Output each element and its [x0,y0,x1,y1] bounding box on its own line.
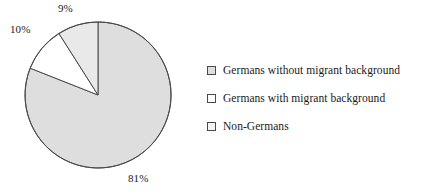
legend-swatch-icon [207,94,216,103]
legend-item-germans-with-migrant-background[interactable]: Germans with migrant background [207,84,423,112]
legend-item-label: Germans with migrant background [223,92,385,104]
pie-value-label-9-percent: 9% [58,2,73,14]
legend-item-non-germans[interactable]: Non-Germans [207,112,423,140]
legend-item-label: Germans without migrant background [223,64,400,76]
pie-value-label-81-percent: 81% [128,172,148,184]
legend-swatch-icon [207,66,216,75]
chart-legend: Germans without migrant background Germa… [207,56,423,140]
legend-item-label: Non-Germans [223,120,289,132]
legend-item-germans-without-migrant-background[interactable]: Germans without migrant background [207,56,423,84]
pie-chart-plot-area: 9% 10% 81% [0,0,200,192]
legend-swatch-icon [207,122,216,131]
pie-value-label-10-percent: 10% [10,23,30,35]
pie-chart-figure: 9% 10% 81% Germans without migrant backg… [0,0,425,192]
